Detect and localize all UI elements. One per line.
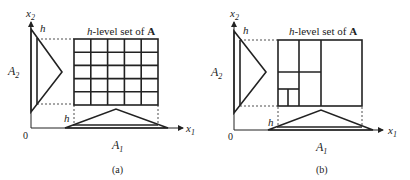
x-axis-label: x1 [185, 122, 195, 137]
origin-label: 0 [228, 131, 233, 142]
panel-a: x2 h h-level set of A A2 h 0 x1 A1 (a) [7, 7, 195, 176]
diagram-canvas: x2 h h-level set of A A2 h 0 x1 A1 (a) [0, 0, 410, 180]
origin-label: 0 [23, 130, 28, 141]
A2-label: A2 [210, 65, 222, 81]
level-set-partition [278, 40, 362, 106]
figure: x2 h h-level set of A A2 h 0 x1 A1 (a) [0, 0, 410, 180]
h-bottom-label: h [268, 116, 274, 128]
h-top-label: h [40, 22, 46, 34]
A2-label: A2 [7, 64, 19, 80]
h-top-label: h [243, 24, 249, 36]
A1-label: A1 [111, 138, 123, 154]
membership-A2 [31, 29, 62, 112]
membership-A2 [234, 31, 266, 113]
plot-title: h-level set of A [289, 25, 357, 37]
y-axis-label: x2 [25, 7, 35, 22]
y-axis-label: x2 [229, 7, 239, 22]
plot-title: h-level set of A [87, 25, 155, 37]
projection-lines [240, 40, 362, 127]
caption-a: (a) [112, 164, 123, 176]
h-bottom-label: h [64, 112, 70, 124]
caption-b: (b) [316, 164, 328, 176]
x-axis-label: x1 [387, 124, 397, 139]
panel-b: x2 h h-level set of A A2 h 0 x1 A1 (b) [210, 7, 397, 176]
level-set-grid [74, 39, 158, 105]
A1-label: A1 [315, 140, 327, 156]
